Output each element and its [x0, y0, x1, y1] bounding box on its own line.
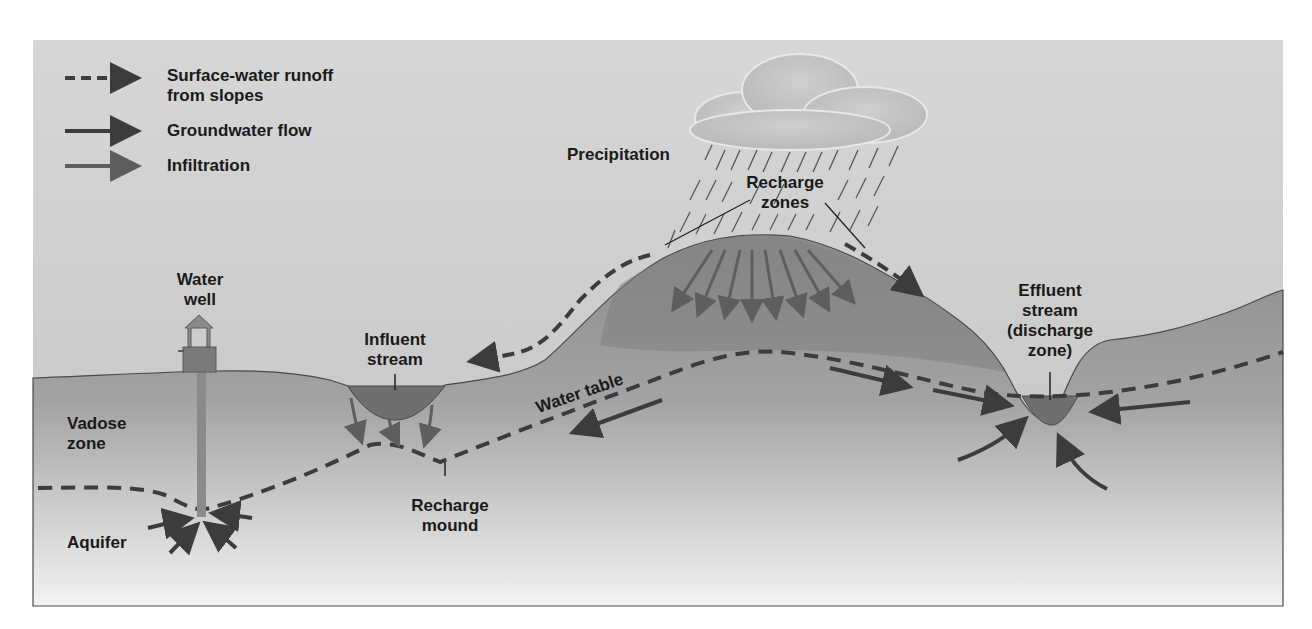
water-well-label: Water well: [165, 270, 235, 310]
precipitation-label: Precipitation: [567, 145, 670, 165]
influent-stream-label: Influent stream: [350, 330, 440, 370]
legend-infiltration-label: Infiltration: [167, 156, 250, 176]
effluent-stream-label: Effluent stream (discharge zone): [995, 281, 1105, 361]
legend-groundwater-label: Groundwater flow: [167, 121, 312, 141]
aquifer-label: Aquifer: [67, 533, 127, 553]
legend-runoff-label: Surface-water runoff from slopes: [167, 66, 333, 106]
recharge-mound-label: Recharge mound: [395, 496, 505, 536]
recharge-zones-label: Recharge zones: [735, 173, 835, 213]
groundwater-diagram: Surface-water runoff from slopes Groundw…: [0, 0, 1312, 629]
vadose-zone-label: Vadose zone: [67, 414, 127, 454]
